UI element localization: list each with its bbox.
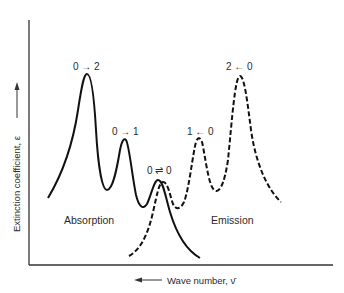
peak-label-abs-0-1: 0 → 1 bbox=[112, 126, 139, 137]
peak-label-em-1-0: 1 ← 0 bbox=[187, 126, 214, 137]
spectra-diagram: Extinction coefficient, ε Wave number, ν… bbox=[0, 0, 344, 293]
peak-label-abs-0-2: 0 → 2 bbox=[73, 61, 100, 72]
absorption-label: Absorption bbox=[64, 214, 114, 226]
peak-label-zero-zero: 0 ⇌ 0 bbox=[147, 165, 172, 176]
up-arrow-icon bbox=[15, 82, 20, 118]
emission-label: Emission bbox=[211, 214, 254, 226]
y-axis-title: Extinction coefficient, ε bbox=[11, 135, 22, 232]
peak-label-em-2-0: 2 ← 0 bbox=[226, 61, 253, 72]
x-axis-title: Wave number, ν̄ bbox=[167, 275, 237, 286]
y-axis-title-group: Extinction coefficient, ε bbox=[11, 135, 22, 232]
absorption-curve bbox=[48, 74, 200, 258]
left-arrow-icon bbox=[134, 278, 162, 283]
